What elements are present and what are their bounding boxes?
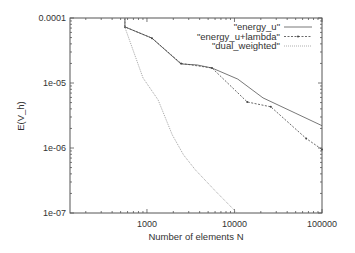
y-tick-label: 1e-06 — [43, 143, 66, 153]
chart: 1000100001000000.00011e-051e-061e-07 "en… — [0, 0, 355, 253]
y-tick-label: 1e-07 — [43, 208, 66, 218]
x-axis-title: Number of elements N — [148, 231, 243, 242]
plot-frame — [70, 18, 322, 213]
y-tick-label: 1e-05 — [43, 78, 66, 88]
x-tick-label: 100000 — [307, 219, 337, 229]
y-axis-title: E(V_h) — [15, 101, 26, 131]
axis-ticks: 1000100001000000.00011e-051e-061e-07 — [38, 13, 337, 229]
x-tick-label: 1000 — [137, 219, 157, 229]
plot-border — [70, 18, 322, 213]
y-tick-label: 0.0001 — [38, 13, 66, 23]
legend: "energy_u""energy_u+lambda""dual_weighte… — [197, 21, 312, 51]
x-tick-label: 10000 — [222, 219, 247, 229]
legend-label: "dual_weighted" — [212, 40, 280, 51]
